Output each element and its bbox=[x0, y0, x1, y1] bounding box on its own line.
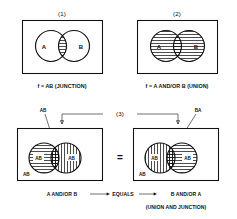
panel-3-left-pointer-label: AB bbox=[40, 108, 47, 113]
panel-2-label-b: B bbox=[194, 44, 199, 50]
figure-canvas: (1) A B f = AB (JUNCTION) (2) A B f = A … bbox=[0, 0, 237, 219]
panel-3-caption-right: B AND/OR A bbox=[171, 191, 202, 197]
panel-3-left-box-group: AB AB AB bbox=[18, 129, 106, 181]
panel-1-caption: f = AB (JUNCTION) bbox=[37, 83, 86, 89]
panel-3-right-corner-label: AB bbox=[139, 172, 146, 177]
panel-3-equals-symbol: = bbox=[117, 152, 123, 163]
panel-1-label-a: A bbox=[42, 44, 47, 50]
panel-2-label-a: A bbox=[157, 44, 162, 50]
panel-3-left-label-b: AB bbox=[68, 156, 75, 161]
panel-3-caption-row: A AND/OR B EQUALS B AND/OR A (UNION AND … bbox=[47, 191, 207, 210]
panel-2: (2) A B f = A AND/OR B (UNION) bbox=[138, 10, 218, 89]
panel-3-right-label-a: AB bbox=[151, 156, 158, 161]
panel-3-left-corner-label: AB bbox=[23, 172, 30, 177]
panel-1-number: (1) bbox=[58, 10, 66, 17]
panel-3-right-box-group: AB AB AB bbox=[134, 129, 222, 181]
panel-3-caption-bottom: (UNION AND JUNCTION) bbox=[146, 204, 207, 210]
panel-3-caption-left: A AND/OR B bbox=[47, 191, 78, 197]
arrow-left-to-equals bbox=[90, 192, 110, 195]
panel-3-number: (3) bbox=[116, 110, 124, 117]
panel-3-right-label-b: AB bbox=[184, 156, 191, 161]
panel-3: (3) AB BA bbox=[18, 108, 222, 210]
panel-3-caption-middle: EQUALS bbox=[112, 191, 134, 197]
venn-diagram-figure: (1) A B f = AB (JUNCTION) (2) A B f = A … bbox=[0, 0, 237, 219]
panel-2-caption: f = A AND/OR B (UNION) bbox=[146, 83, 209, 89]
panel-3-left-label-a: AB bbox=[35, 156, 42, 161]
panel-3-right-pointer-label: BA bbox=[195, 108, 202, 113]
panel-1: (1) A B f = AB (JUNCTION) bbox=[23, 10, 103, 89]
panel-2-number: (2) bbox=[173, 10, 181, 17]
panel-1-label-b: B bbox=[79, 44, 84, 50]
arrow-equals-to-right bbox=[139, 192, 157, 195]
